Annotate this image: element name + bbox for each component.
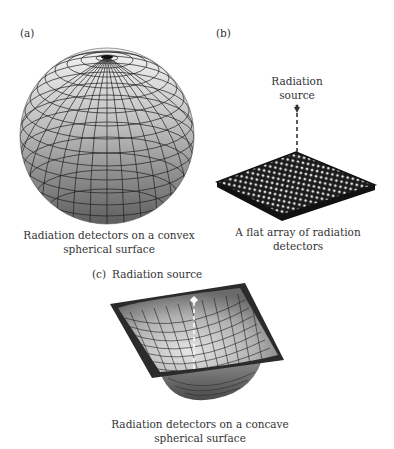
- figure-canvas: [0, 0, 394, 449]
- source-marker-b: [294, 107, 300, 113]
- panel-b-caption: A flat array of radiation detectors: [212, 226, 384, 253]
- panel-a-label: (a): [20, 27, 34, 40]
- panel-c-source-label: Radiation source: [112, 268, 202, 281]
- panel-a-caption: Radiation detectors on a convex spherica…: [14, 229, 204, 256]
- panel-b-source-line2: source: [262, 89, 332, 103]
- panel-b-source-line1: Radiation: [262, 75, 332, 89]
- panel-c-caption-line2: spherical surface: [105, 432, 295, 446]
- panel-c-caption-line1: Radiation detectors on a concave: [105, 418, 295, 432]
- panel-a-caption-line1: Radiation detectors on a convex: [14, 229, 204, 243]
- panel-b-label: (b): [216, 27, 231, 40]
- panel-b-source-label: Radiation source: [262, 75, 332, 102]
- flat-detector-array: [217, 152, 375, 221]
- panel-c-caption: Radiation detectors on a concave spheric…: [105, 418, 295, 445]
- panel-a-caption-line2: spherical surface: [14, 243, 204, 257]
- panel-c-label: (c): [92, 268, 106, 281]
- convex-sphere: [14, 48, 200, 225]
